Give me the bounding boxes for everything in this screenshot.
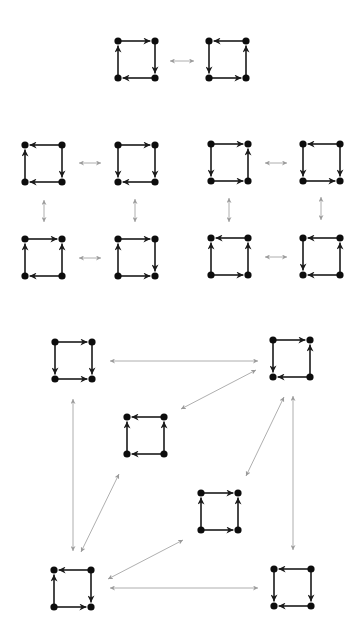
vertex-node bbox=[114, 272, 121, 279]
vertex-node bbox=[299, 234, 306, 241]
oriented-square-g2d bbox=[299, 234, 343, 278]
vertex-node bbox=[21, 235, 28, 242]
flip-link-B-D bbox=[246, 397, 284, 476]
vertex-node bbox=[299, 271, 306, 278]
vertex-node bbox=[151, 235, 158, 242]
oriented-square-B bbox=[269, 336, 313, 380]
vertex-node bbox=[151, 272, 158, 279]
vertex-node bbox=[151, 37, 158, 44]
vertex-node bbox=[197, 489, 204, 496]
vertex-node bbox=[114, 74, 121, 81]
vertex-node bbox=[114, 37, 121, 44]
vertex-node bbox=[151, 74, 158, 81]
vertex-node bbox=[270, 602, 277, 609]
vertex-node bbox=[244, 140, 251, 147]
vertex-node bbox=[21, 141, 28, 148]
oriented-squares-layer bbox=[21, 37, 343, 610]
vertex-node bbox=[58, 235, 65, 242]
vertex-node bbox=[234, 489, 241, 496]
vertex-node bbox=[114, 178, 121, 185]
vertex-node bbox=[207, 140, 214, 147]
vertex-node bbox=[336, 177, 343, 184]
vertex-node bbox=[299, 177, 306, 184]
vertex-node bbox=[160, 413, 167, 420]
vertex-node bbox=[87, 603, 94, 610]
vertex-node bbox=[244, 271, 251, 278]
vertex-node bbox=[151, 141, 158, 148]
vertex-node bbox=[269, 373, 276, 380]
vertex-node bbox=[58, 178, 65, 185]
vertex-node bbox=[242, 37, 249, 44]
vertex-node bbox=[58, 272, 65, 279]
vertex-node bbox=[205, 74, 212, 81]
oriented-square-D bbox=[197, 489, 241, 533]
vertex-node bbox=[307, 565, 314, 572]
vertex-node bbox=[58, 141, 65, 148]
vertex-node bbox=[207, 234, 214, 241]
vertex-node bbox=[50, 603, 57, 610]
oriented-square-g1a bbox=[21, 141, 65, 185]
vertex-node bbox=[270, 565, 277, 572]
vertex-node bbox=[114, 235, 121, 242]
vertex-node bbox=[205, 37, 212, 44]
flip-link-D-E bbox=[108, 540, 183, 579]
oriented-square-r1a bbox=[114, 37, 158, 81]
vertex-node bbox=[51, 338, 58, 345]
vertex-node bbox=[51, 375, 58, 382]
vertex-node bbox=[160, 450, 167, 457]
oriented-square-g1c bbox=[21, 235, 65, 279]
vertex-node bbox=[336, 140, 343, 147]
vertex-node bbox=[123, 413, 130, 420]
vertex-node bbox=[197, 526, 204, 533]
oriented-square-F bbox=[270, 565, 314, 609]
vertex-node bbox=[336, 271, 343, 278]
diagram-canvas bbox=[0, 0, 352, 628]
vertex-node bbox=[336, 234, 343, 241]
oriented-square-A bbox=[51, 338, 95, 382]
vertex-node bbox=[151, 178, 158, 185]
oriented-square-g1b bbox=[114, 141, 158, 185]
vertex-node bbox=[21, 178, 28, 185]
vertex-node bbox=[114, 141, 121, 148]
vertex-node bbox=[234, 526, 241, 533]
vertex-node bbox=[306, 336, 313, 343]
flip-link-C-E bbox=[81, 474, 119, 552]
flip-link-B-C bbox=[181, 370, 256, 409]
oriented-square-g2c bbox=[207, 234, 251, 278]
oriented-square-g1d bbox=[114, 235, 158, 279]
square-orientation-diagram bbox=[0, 0, 352, 628]
vertex-node bbox=[244, 177, 251, 184]
oriented-square-E bbox=[50, 566, 94, 610]
vertex-node bbox=[207, 177, 214, 184]
vertex-node bbox=[299, 140, 306, 147]
vertex-node bbox=[123, 450, 130, 457]
vertex-node bbox=[87, 566, 94, 573]
vertex-node bbox=[50, 566, 57, 573]
vertex-node bbox=[21, 272, 28, 279]
oriented-square-r1b bbox=[205, 37, 249, 81]
oriented-square-C bbox=[123, 413, 167, 457]
vertex-node bbox=[244, 234, 251, 241]
oriented-square-g2a bbox=[207, 140, 251, 184]
vertex-node bbox=[307, 602, 314, 609]
vertex-node bbox=[269, 336, 276, 343]
oriented-square-g2b bbox=[299, 140, 343, 184]
vertex-node bbox=[88, 375, 95, 382]
vertex-node bbox=[88, 338, 95, 345]
vertex-node bbox=[207, 271, 214, 278]
vertex-node bbox=[306, 373, 313, 380]
flip-links-layer bbox=[44, 61, 321, 588]
vertex-node bbox=[242, 74, 249, 81]
